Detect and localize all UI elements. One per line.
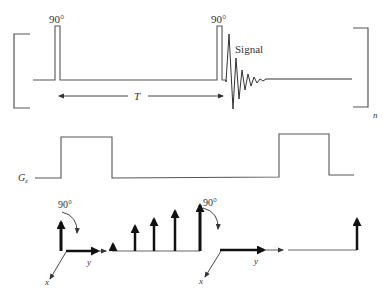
final-recovery [288, 219, 357, 250]
rotation-arrow-2 [203, 208, 218, 229]
rf-row: 90° 90° Signal n T [14, 13, 378, 120]
pulse-sequence-diagram: 90° 90° Signal n T Gz 90° y x [0, 0, 388, 300]
pulse2-label: 90° [211, 13, 226, 25]
recovery-sequence: 90° [112, 197, 218, 251]
rotation-label-2: 90° [203, 197, 217, 208]
vector-frame-1: 90° y x [44, 199, 106, 287]
vector-row: 90° y x 90° y x [44, 197, 357, 287]
right-bracket [353, 28, 368, 107]
x-axis [205, 251, 221, 277]
y-axis-label-1: y [86, 257, 91, 267]
vector-frame-2: y x [198, 250, 283, 286]
repeat-count-label: n [373, 110, 378, 120]
rotation-label-1: 90° [58, 199, 72, 210]
y-axis-label-2: y [253, 256, 258, 266]
gradient-row: Gz [18, 134, 354, 184]
pulse1-label: 90° [49, 13, 64, 25]
left-bracket [14, 34, 30, 108]
gradient-waveform [35, 134, 354, 178]
interval-label: T [134, 90, 141, 102]
rotation-arrow [62, 212, 77, 233]
rf-baseline [33, 26, 226, 80]
signal-label: Signal [235, 43, 263, 55]
x-axis-label-2: x [198, 276, 203, 286]
gradient-label: Gz [18, 172, 28, 184]
x-axis [50, 252, 66, 279]
x-axis-label-1: x [44, 277, 49, 287]
